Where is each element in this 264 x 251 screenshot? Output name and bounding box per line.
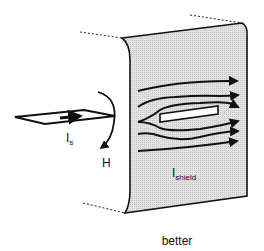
caption: better [162,234,193,248]
magnetic-field-label: H [102,156,111,170]
shield-diagram: Is H Ishield better [0,0,264,251]
source-current-label: Is [66,131,73,147]
magnetic-field-arrow [98,92,115,148]
source-loop [15,110,115,124]
